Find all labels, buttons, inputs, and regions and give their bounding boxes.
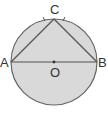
label-b: B xyxy=(98,55,107,70)
center-point-o xyxy=(53,61,56,64)
label-c: C xyxy=(50,2,59,17)
diagram-canvas: C A B O xyxy=(0,0,108,113)
geometry-diagram: C A B O xyxy=(0,0,108,113)
label-a: A xyxy=(0,55,9,70)
label-o: O xyxy=(50,65,60,80)
